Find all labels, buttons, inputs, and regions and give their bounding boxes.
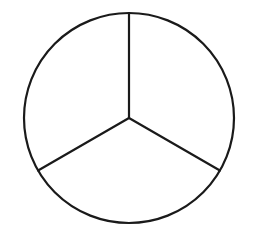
divided-circle-diagram [0,0,255,239]
